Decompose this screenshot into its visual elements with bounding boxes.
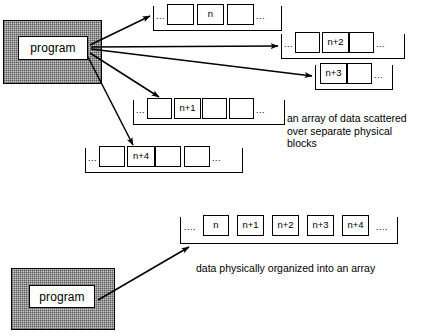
array-cell-n-plus-1: n+1 (237, 215, 264, 236)
cell-empty (99, 146, 125, 167)
cell-n-plus-1: n+1 (174, 98, 201, 119)
array-lead-ellipsis: .... (181, 223, 199, 232)
cell-empty (347, 63, 372, 84)
cell-n: n (197, 4, 224, 25)
cell-empty (155, 146, 181, 167)
block-n-plus-3-trail-ellipsis: ... (372, 71, 385, 80)
array-trail-ellipsis: .... (373, 223, 391, 232)
cell-n-plus-3: n+3 (320, 63, 347, 84)
arrow-to-block-n-plus-3 (91, 49, 312, 76)
memory-block-n-plus-2: ... n+2 ... (281, 34, 405, 59)
cell-empty (147, 98, 172, 119)
diagram-canvas: program ... n ... ... n+2 ... n+3 ... ..… (0, 0, 432, 336)
cell-empty (167, 4, 194, 25)
memory-block-n-plus-3: n+3 ... (315, 65, 393, 90)
block-n-plus-2-trail-ellipsis: ... (374, 40, 387, 49)
block-n-lead-ellipsis: ... (154, 12, 167, 21)
memory-block-n-plus-4: ... n+4 ... (85, 148, 243, 173)
arrow-to-block-n-plus-2 (91, 46, 278, 47)
block-n-plus-4-trail-ellipsis: ... (210, 154, 223, 163)
top-program-label: program (30, 41, 75, 55)
bottom-program-box[interactable]: program (29, 285, 95, 308)
cell-empty (227, 4, 254, 25)
cell-empty (295, 32, 320, 53)
cell-empty (229, 98, 254, 119)
array-cell-n-plus-4: n+4 (342, 215, 369, 236)
memory-block-n-plus-1: ... n+1 ... (133, 100, 285, 125)
block-n-plus-1-trail-ellipsis: ... (254, 106, 267, 115)
block-n-plus-1-lead-ellipsis: ... (134, 106, 147, 115)
array-cell-n: n (203, 215, 229, 236)
array-cell-n-plus-3: n+3 (307, 215, 334, 236)
top-caption-text: an array of data scattered over separate… (287, 112, 432, 150)
memory-block-n: ... n ... (153, 6, 282, 31)
cell-empty (184, 146, 210, 167)
cell-empty (202, 98, 227, 119)
contiguous-array-block: .... n n+1 n+2 n+3 n+4 .... (180, 217, 398, 244)
block-n-plus-2-lead-ellipsis: ... (282, 40, 295, 49)
block-n-trail-ellipsis: ... (254, 12, 267, 21)
block-n-plus-4-lead-ellipsis: ... (86, 154, 99, 163)
cell-n-plus-2: n+2 (322, 32, 349, 53)
bottom-program-label: program (39, 290, 84, 304)
top-program-box[interactable]: program (18, 36, 88, 60)
cell-empty (349, 32, 374, 53)
cell-n-plus-4: n+4 (127, 146, 155, 167)
bottom-caption-text: data physically organized into an array (196, 262, 432, 275)
array-cell-n-plus-2: n+2 (272, 215, 299, 236)
